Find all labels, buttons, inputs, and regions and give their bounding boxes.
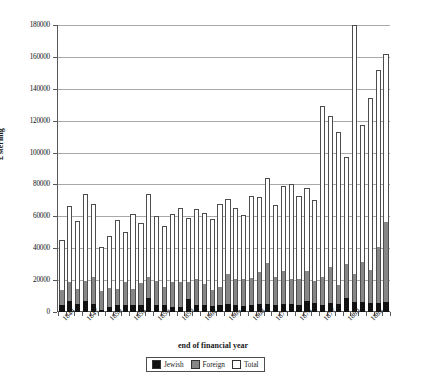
- bar-column: [154, 216, 159, 312]
- bar-column: [304, 188, 309, 312]
- bar-column: [249, 196, 254, 312]
- legend-item-foreign: Foreign: [191, 360, 225, 369]
- bar-segment-jewish: [312, 303, 317, 312]
- bar-column: [233, 208, 238, 312]
- x-tick-mark: [271, 312, 272, 316]
- bar-segment-foreign: [123, 282, 128, 305]
- bar-segment-jewish: [320, 305, 325, 312]
- bar-segment-foreign: [304, 271, 309, 301]
- y-tick-label: 160000: [8, 53, 50, 61]
- x-tick-mark: [248, 312, 249, 316]
- bar-segment-foreign: [99, 291, 104, 309]
- bar-column: [130, 214, 135, 312]
- bar-segment-foreign: [249, 278, 254, 305]
- bar-segment-foreign: [210, 290, 215, 307]
- bar-segment-jewish: [154, 305, 159, 312]
- bar-segment-foreign: [130, 289, 135, 305]
- bar-segment-foreign: [273, 277, 278, 305]
- bar-segment-total: [123, 232, 128, 282]
- bar-segment-jewish: [202, 305, 207, 312]
- y-tick-label: 100000: [8, 149, 50, 157]
- x-tick-mark: [319, 312, 320, 316]
- bar-segment-jewish: [368, 303, 373, 312]
- bar-column: [99, 247, 104, 312]
- y-tick-label: 120000: [8, 117, 50, 125]
- bar-column: [383, 54, 388, 312]
- bar-column: [257, 197, 262, 312]
- bar-segment-total: [304, 188, 309, 271]
- bar-column: [360, 125, 365, 312]
- y-tick-label: 60000: [8, 212, 50, 220]
- bar-segment-total: [360, 125, 365, 262]
- bar-segment-total: [225, 199, 230, 274]
- bar-column: [289, 184, 294, 312]
- bar-segment-foreign: [257, 272, 262, 304]
- x-tick-mark: [295, 312, 296, 316]
- bar-segment-total: [186, 218, 191, 282]
- bar-segment-foreign: [241, 279, 246, 306]
- bar-segment-total: [344, 157, 349, 263]
- bar-segment-foreign: [328, 267, 333, 303]
- y-tick-mark: [53, 312, 57, 313]
- bar-segment-total: [233, 208, 238, 278]
- legend-swatch-icon-foreign: [191, 360, 200, 369]
- bar-segment-foreign: [336, 285, 341, 304]
- y-tick-label: 40000: [8, 244, 50, 252]
- bar-segment-total: [91, 204, 96, 277]
- bar-segment-foreign: [360, 262, 365, 302]
- bar-segment-foreign: [281, 271, 286, 304]
- bar-segment-total: [257, 197, 262, 272]
- bar-column: [178, 208, 183, 312]
- legend-swatch-icon-total: [232, 360, 241, 369]
- bar-series-group: [58, 25, 390, 312]
- bar-segment-total: [115, 220, 120, 289]
- bar-segment-total: [67, 206, 72, 282]
- bar-column: [186, 218, 191, 312]
- bar-segment-total: [376, 70, 381, 247]
- bar-segment-total: [107, 236, 112, 288]
- bar-segment-total: [312, 200, 317, 281]
- bar-segment-foreign: [233, 279, 238, 305]
- bar-column: [170, 214, 175, 312]
- bar-segment-total: [178, 208, 183, 281]
- bar-segment-foreign: [265, 263, 270, 303]
- bar-segment-total: [289, 184, 294, 278]
- bar-column: [376, 70, 381, 312]
- bar-segment-total: [368, 98, 373, 270]
- bar-segment-foreign: [296, 279, 301, 305]
- bar-segment-total: [217, 204, 222, 287]
- bar-segment-foreign: [344, 264, 349, 298]
- y-tick-label: 20000: [8, 276, 50, 284]
- y-tick-label: 180000: [8, 21, 50, 29]
- x-tick-mark: [177, 312, 178, 316]
- bar-segment-total: [202, 213, 207, 284]
- bar-segment-foreign: [83, 281, 88, 300]
- bar-segment-total: [352, 25, 357, 274]
- bar-column: [67, 206, 72, 312]
- bar-column: [225, 199, 230, 312]
- bar-segment-foreign: [107, 288, 112, 307]
- bar-column: [336, 132, 341, 312]
- bar-column: [312, 200, 317, 312]
- x-tick-mark: [224, 312, 225, 316]
- bar-segment-jewish: [83, 301, 88, 312]
- bar-segment-foreign: [91, 277, 96, 304]
- bar-segment-foreign: [368, 270, 373, 303]
- bar-segment-total: [336, 132, 341, 285]
- bar-segment-total: [75, 221, 80, 289]
- bar-segment-total: [170, 214, 175, 282]
- bar-column: [146, 194, 151, 312]
- x-axis-title: end of financial year: [0, 341, 426, 350]
- bar-segment-jewish: [249, 305, 254, 312]
- bar-segment-total: [138, 223, 143, 283]
- x-tick-mark: [366, 312, 367, 316]
- y-tick-label: 140000: [8, 85, 50, 93]
- bar-segment-total: [265, 178, 270, 263]
- bar-column: [273, 205, 278, 312]
- bar-segment-foreign: [186, 282, 191, 299]
- x-tick-mark: [58, 312, 59, 316]
- bar-segment-jewish: [296, 305, 301, 312]
- bar-segment-total: [59, 240, 64, 289]
- bar-segment-total: [154, 216, 159, 280]
- bar-column: [352, 25, 357, 312]
